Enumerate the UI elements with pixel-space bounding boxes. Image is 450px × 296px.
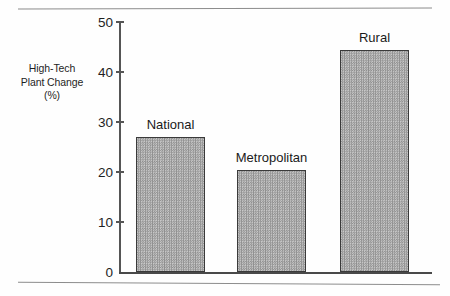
y-axis-label: High-Tech Plant Change (%) (4, 62, 100, 103)
x-axis-baseline (119, 272, 432, 274)
y-tick-label-50: 50 (98, 15, 113, 30)
y-tick-label-0: 0 (105, 265, 113, 280)
bar-chart-figure: High-Tech Plant Change (%) 01020304050 N… (0, 0, 450, 296)
y-tick-mark-10 (116, 221, 124, 222)
y-tick-label-20: 20 (98, 165, 113, 180)
y-tick-mark-20 (116, 171, 124, 172)
bar-rural (340, 50, 409, 273)
y-tick-mark-40 (116, 71, 124, 72)
bar-metropolitan (237, 170, 306, 273)
y-tick-mark-50 (116, 21, 124, 22)
bar-label-rural: Rural (359, 30, 390, 45)
y-axis-label-line-1: High-Tech (4, 62, 100, 76)
y-tick-label-10: 10 (98, 215, 113, 230)
bar-label-national: National (147, 117, 195, 132)
plot-area: 01020304050 NationalMetropolitanRural (119, 22, 432, 272)
bar-label-metropolitan: Metropolitan (236, 150, 308, 165)
y-tick-mark-30 (116, 121, 124, 122)
y-axis-label-line-3: (%) (4, 89, 100, 103)
y-tick-label-30: 30 (98, 115, 113, 130)
bar-national (136, 137, 205, 272)
y-tick-label-40: 40 (98, 65, 113, 80)
y-axis-label-line-2: Plant Change (4, 76, 100, 90)
bottom-divider-rule (18, 282, 440, 286)
top-divider-rule (18, 8, 432, 10)
y-axis-spine (119, 22, 121, 272)
